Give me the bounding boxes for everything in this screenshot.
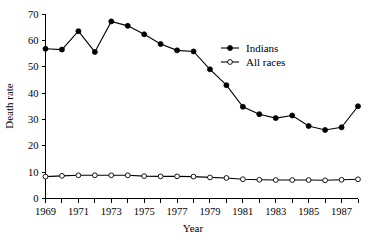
data-point bbox=[175, 174, 180, 179]
data-point bbox=[142, 32, 147, 37]
data-point bbox=[207, 67, 212, 72]
data-point bbox=[257, 112, 262, 117]
data-point bbox=[191, 49, 196, 54]
data-point bbox=[290, 113, 295, 118]
x-tick-label: 1981 bbox=[232, 206, 253, 217]
x-tick-label: 1983 bbox=[265, 206, 286, 217]
data-point bbox=[158, 174, 163, 179]
series-all-races bbox=[43, 173, 360, 183]
series-line bbox=[46, 21, 359, 130]
data-point bbox=[240, 104, 245, 109]
y-tick-label: 60 bbox=[28, 35, 39, 46]
data-point bbox=[339, 177, 344, 182]
x-tick-label: 1971 bbox=[68, 206, 89, 217]
x-axis-ticks: 1969197119731975197719791981198319851987 bbox=[35, 199, 358, 217]
data-point bbox=[323, 127, 328, 132]
legend-marker-filled-circle-icon bbox=[228, 46, 233, 51]
data-point bbox=[224, 83, 229, 88]
y-tick-label: 70 bbox=[28, 9, 39, 20]
x-tick-label: 1975 bbox=[134, 206, 155, 217]
data-point bbox=[273, 178, 278, 183]
data-point bbox=[191, 174, 196, 179]
data-point bbox=[125, 23, 130, 28]
data-point bbox=[306, 124, 311, 129]
y-tick-label: 40 bbox=[28, 88, 39, 99]
data-point bbox=[92, 49, 97, 54]
data-point bbox=[339, 125, 344, 130]
data-point bbox=[109, 19, 114, 24]
series-group bbox=[43, 19, 361, 183]
data-point bbox=[290, 178, 295, 183]
data-point bbox=[356, 177, 361, 182]
data-point bbox=[92, 173, 97, 178]
line-chart: 010203040506070 196919711973197519771979… bbox=[0, 0, 369, 240]
series-indians bbox=[43, 19, 361, 133]
data-point bbox=[60, 173, 65, 178]
y-tick-label: 50 bbox=[28, 61, 39, 72]
y-tick-label: 20 bbox=[28, 140, 39, 151]
data-point bbox=[356, 104, 361, 109]
data-point bbox=[323, 178, 328, 183]
data-point bbox=[158, 42, 163, 47]
y-axis-title: Death rate bbox=[3, 83, 15, 129]
y-tick-label: 10 bbox=[28, 167, 39, 178]
y-axis-ticks: 010203040506070 bbox=[28, 9, 46, 205]
legend: IndiansAll races bbox=[221, 42, 285, 68]
y-tick-label: 30 bbox=[28, 114, 39, 125]
x-tick-label: 1979 bbox=[199, 206, 220, 217]
data-point bbox=[109, 173, 114, 178]
y-tick-label: 0 bbox=[33, 193, 38, 204]
data-point bbox=[273, 116, 278, 121]
data-point bbox=[43, 174, 48, 179]
x-axis-title: Year bbox=[183, 222, 204, 234]
data-point bbox=[224, 176, 229, 181]
data-point bbox=[125, 173, 130, 178]
x-tick-label: 1987 bbox=[331, 206, 352, 217]
legend-marker-open-circle-icon bbox=[228, 60, 233, 65]
data-point bbox=[257, 177, 262, 182]
x-tick-label: 1969 bbox=[35, 206, 56, 217]
legend-label: All races bbox=[246, 56, 285, 68]
data-point bbox=[76, 173, 81, 178]
data-point bbox=[43, 46, 48, 51]
legend-label: Indians bbox=[246, 42, 278, 54]
x-tick-label: 1977 bbox=[167, 206, 188, 217]
data-point bbox=[142, 174, 147, 179]
axes bbox=[46, 14, 359, 199]
data-point bbox=[76, 29, 81, 34]
data-point bbox=[306, 178, 311, 183]
data-point bbox=[59, 47, 64, 52]
data-point bbox=[240, 177, 245, 182]
data-point bbox=[208, 175, 213, 180]
chart-container: 010203040506070 196919711973197519771979… bbox=[0, 0, 369, 240]
x-tick-label: 1985 bbox=[298, 206, 319, 217]
data-point bbox=[175, 48, 180, 53]
x-tick-label: 1973 bbox=[101, 206, 122, 217]
